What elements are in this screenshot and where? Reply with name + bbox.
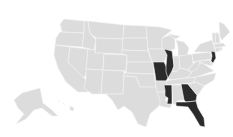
state-arizona[interactable]: Arizona — [84, 69, 103, 94]
state-wyoming[interactable]: Wyoming — [95, 38, 123, 54]
state-washington[interactable]: Washington — [60, 19, 84, 33]
state-north-dakota[interactable]: North Dakota — [123, 25, 147, 38]
state-rhode-island[interactable]: Rhode Island — [220, 47, 222, 51]
state-kansas[interactable]: Kansas — [126, 62, 154, 74]
state-south-dakota[interactable]: South Dakota — [122, 38, 148, 51]
state-new-mexico[interactable]: New Mexico — [101, 70, 124, 94]
state-colorado[interactable]: Colorado — [103, 54, 127, 71]
state-oregon[interactable]: Oregon — [55, 32, 84, 47]
us-map: WashingtonOregonCaliforniaIdahoNevadaMon… — [0, 0, 233, 137]
